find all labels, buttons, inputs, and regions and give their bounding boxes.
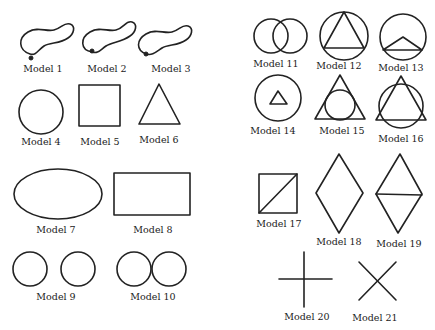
shape-models-figure: Model 1 Model 2 Model 3 Model 4 Model 5 … — [0, 0, 435, 330]
triangle-shape-icon — [376, 76, 426, 120]
model-label: Model 6 — [139, 134, 178, 145]
model-label: Model 18 — [316, 236, 361, 247]
start-dot-icon — [90, 49, 94, 53]
circle-shape-icon — [13, 252, 47, 286]
model-label: Model 17 — [256, 218, 301, 229]
model-18: Model 18 — [316, 154, 363, 247]
diagonal-line-icon — [259, 174, 297, 213]
model-label: Model 2 — [87, 63, 126, 74]
model-label: Model 14 — [250, 125, 295, 136]
rectangle-shape-icon — [114, 173, 190, 215]
model-11: Model 11 — [253, 19, 307, 69]
triangle-shape-icon — [315, 75, 365, 119]
model-label: Model 10 — [130, 291, 175, 302]
model-5: Model 5 — [79, 85, 120, 147]
model-1: Model 1 — [21, 24, 74, 74]
start-dot-icon — [144, 52, 148, 56]
model-20: Model 20 — [279, 252, 332, 322]
chord-triangle-shape-icon — [383, 37, 422, 50]
model-label: Model 9 — [36, 291, 75, 302]
circle-shape-icon — [19, 90, 63, 134]
model-12: Model 12 — [316, 12, 368, 71]
model-2: Model 2 — [83, 22, 136, 74]
horizontal-diagonal-line-icon — [376, 194, 422, 195]
model-label: Model 13 — [378, 62, 423, 73]
model-8: Model 8 — [114, 173, 190, 235]
model-3: Model 3 — [139, 26, 192, 74]
model-4: Model 4 — [19, 90, 63, 147]
blob-shape-icon — [139, 26, 192, 55]
rhombus-shape-icon — [316, 154, 363, 233]
model-7: Model 7 — [14, 169, 102, 235]
circle-shape-icon — [254, 19, 288, 53]
model-label: Model 4 — [21, 136, 60, 147]
model-label: Model 19 — [376, 238, 421, 249]
model-15: Model 15 — [315, 75, 365, 136]
circle-shape-icon — [320, 12, 368, 60]
circle-shape-icon — [61, 252, 95, 286]
start-dot-icon — [29, 56, 33, 60]
blob-shape-icon — [21, 24, 74, 55]
model-label: Model 11 — [253, 58, 298, 69]
model-17: Model 17 — [256, 174, 301, 229]
model-label: Model 7 — [36, 224, 75, 235]
model-label: Model 8 — [133, 224, 172, 235]
model-10: Model 10 — [117, 252, 186, 302]
circle-shape-icon — [379, 84, 423, 128]
blob-shape-icon — [83, 22, 136, 53]
small-triangle-shape-icon — [270, 91, 287, 104]
square-shape-icon — [79, 85, 120, 126]
circle-shape-icon — [273, 19, 307, 53]
circle-shape-icon — [117, 252, 151, 286]
model-label: Model 15 — [319, 125, 364, 136]
model-label: Model 16 — [378, 133, 423, 144]
model-label: Model 5 — [80, 136, 119, 147]
model-9: Model 9 — [13, 252, 95, 302]
ellipse-shape-icon — [14, 169, 102, 219]
model-19: Model 19 — [376, 154, 422, 249]
model-label: Model 12 — [316, 60, 361, 71]
model-21: Model 21 — [352, 262, 397, 323]
model-6: Model 6 — [139, 84, 180, 145]
model-label: Model 20 — [284, 311, 329, 322]
model-label: Model 3 — [151, 63, 190, 74]
model-label: Model 21 — [352, 312, 397, 323]
model-label: Model 1 — [23, 63, 62, 74]
model-16: Model 16 — [376, 76, 426, 144]
circle-shape-icon — [152, 252, 186, 286]
model-14: Model 14 — [250, 75, 301, 136]
triangle-shape-icon — [139, 84, 180, 124]
circle-shape-icon — [255, 75, 301, 121]
model-13: Model 13 — [378, 14, 426, 73]
circle-shape-icon — [325, 90, 355, 120]
